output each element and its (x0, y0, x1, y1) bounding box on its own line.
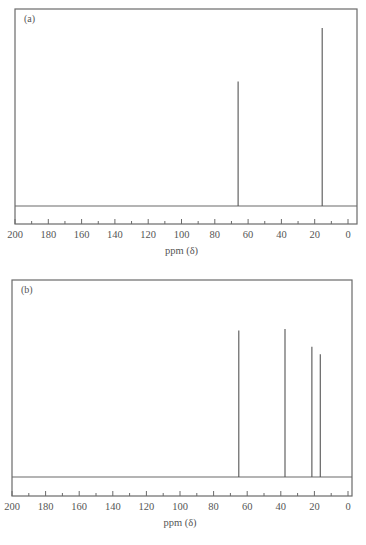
x-tick-label: 80 (208, 501, 219, 512)
x-tick-label: 60 (242, 501, 253, 512)
x-tick-label: 0 (345, 501, 350, 512)
x-tick-label: 20 (309, 501, 320, 512)
x-tick-label: 20 (309, 229, 320, 240)
plot-frame (15, 9, 357, 224)
x-tick-label: 180 (38, 501, 54, 512)
x-tick-label: 200 (7, 229, 23, 240)
x-axis-label: ppm (δ) (165, 245, 199, 257)
x-tick-label: 100 (174, 229, 190, 240)
panel-label: (b) (21, 284, 33, 296)
x-tick-label: 60 (243, 229, 254, 240)
spectrum-panel-b: (b)200180160140120100806040200ppm (δ) (0, 270, 366, 545)
plot-frame (12, 280, 352, 496)
x-tick-label: 160 (71, 501, 87, 512)
x-tick-label: 80 (210, 229, 221, 240)
spectrum-panel-a: (a)200180160140120100806040200ppm (δ) (0, 0, 366, 265)
x-tick-label: 120 (140, 229, 156, 240)
x-tick-label: 120 (139, 501, 155, 512)
x-tick-label: 40 (276, 229, 287, 240)
x-tick-label: 140 (105, 501, 121, 512)
spectrum-chart-a: (a)200180160140120100806040200ppm (δ) (0, 0, 366, 265)
spectrum-chart-b: (b)200180160140120100806040200ppm (δ) (0, 270, 366, 545)
panel-label: (a) (24, 13, 35, 25)
x-tick-label: 100 (172, 501, 188, 512)
x-axis-label: ppm (δ) (163, 517, 197, 529)
x-tick-label: 0 (345, 229, 350, 240)
x-tick-label: 200 (4, 501, 20, 512)
x-tick-label: 180 (40, 229, 56, 240)
x-tick-label: 140 (107, 229, 123, 240)
x-tick-label: 160 (74, 229, 90, 240)
x-tick-label: 40 (276, 501, 287, 512)
